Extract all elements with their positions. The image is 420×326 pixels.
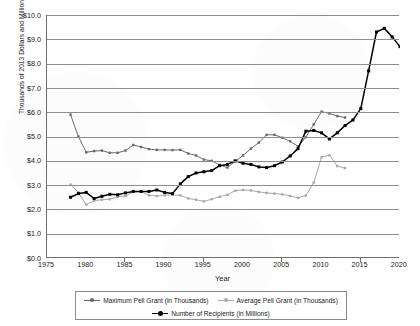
legend-label-number-of-recipients: Number of Recipients (in Millions) xyxy=(171,310,270,317)
x-tick-2000: 2000 xyxy=(234,261,250,269)
x-tick-2010: 2010 xyxy=(312,261,328,269)
x-tick-2015: 2015 xyxy=(352,261,368,269)
legend-item-maximum-pell-grant[interactable]: Maximum Pell Grant (in Thousands) xyxy=(84,297,208,304)
x-tick-1975: 1975 xyxy=(38,261,54,269)
x-tickmark-2005 xyxy=(281,258,282,262)
line-marker-light-gray-icon xyxy=(218,297,234,304)
pell-grant-line-chart: Thousands of 2013 Dollars and Millions o… xyxy=(0,0,420,326)
legend-item-number-of-recipients[interactable]: Number of Recipients (in Millions) xyxy=(152,310,270,317)
x-tickmark-1985 xyxy=(124,258,125,262)
x-tickmark-1995 xyxy=(203,258,204,262)
line-marker-black-icon xyxy=(152,310,168,317)
x-tick-2020: 2020 xyxy=(391,261,407,269)
x-tick-1985: 1985 xyxy=(116,261,132,269)
x-axis-title: Year xyxy=(46,274,399,283)
legend-item-average-pell-grant[interactable]: Average Pell Grant (in Thousands) xyxy=(218,297,338,304)
x-tick-1980: 1980 xyxy=(77,261,93,269)
line-marker-dark-gray-icon xyxy=(84,297,100,304)
legend-label-maximum-pell-grant: Maximum Pell Grant (in Thousands) xyxy=(103,297,208,304)
x-tick-1995: 1995 xyxy=(195,261,211,269)
legend-label-average-pell-grant: Average Pell Grant (in Thousands) xyxy=(237,297,338,304)
x-tick-2005: 2005 xyxy=(273,261,289,269)
x-tickmark-2015 xyxy=(360,258,361,262)
x-tick-1990: 1990 xyxy=(156,261,172,269)
legend: Maximum Pell Grant (in Thousands) Averag… xyxy=(75,291,347,320)
